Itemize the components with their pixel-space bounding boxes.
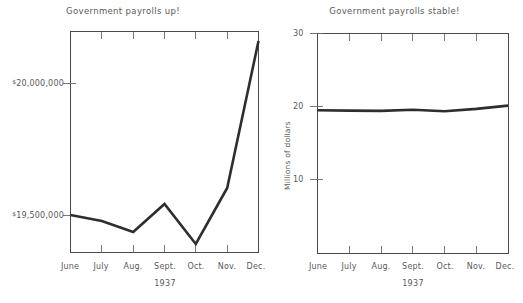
chart-panel-right: Government payrolls stable! <box>262 0 523 303</box>
right-data-line <box>318 106 509 112</box>
right-ytick-label-20: 20 <box>293 102 304 111</box>
right-xtick-label-june: June <box>309 262 327 271</box>
right-x-ticks <box>349 246 476 254</box>
right-xtick-label-nov: Nov. <box>467 262 485 271</box>
left-ytick-label-bottom: $19,500,000 <box>12 210 64 220</box>
left-chart-plot <box>0 0 262 303</box>
left-xtick-label-sept: Sept. <box>154 262 176 271</box>
left-top-ticks <box>102 32 227 40</box>
left-axis-year: 1937 <box>154 279 176 288</box>
right-ytick-label-30: 30 <box>293 29 304 38</box>
left-y-ticks <box>63 84 76 216</box>
right-xtick-label-aug: Aug. <box>372 262 391 271</box>
right-axis-year: 1937 <box>402 279 424 288</box>
left-xtick-label-july: July <box>93 262 108 271</box>
left-xtick-label-oct: Oct. <box>187 262 204 271</box>
left-ytick-value-bottom: 19,500,000 <box>16 211 64 220</box>
right-xtick-label-dec: Dec. <box>496 262 515 271</box>
right-xtick-label-oct: Oct. <box>436 262 453 271</box>
right-chart-plot <box>262 0 523 303</box>
right-y-axis-title: Millions of dollars <box>283 121 292 190</box>
left-ytick-value-top: 20,000,000 <box>16 79 64 88</box>
right-xtick-label-sept: Sept. <box>402 262 424 271</box>
left-x-ticks <box>102 245 227 253</box>
left-ytick-label-top: $20,000,000 <box>12 78 64 88</box>
right-y-ticks <box>310 34 323 180</box>
left-xtick-label-aug: Aug. <box>124 262 143 271</box>
left-data-line <box>71 41 259 244</box>
right-top-ticks <box>349 34 476 42</box>
right-ytick-label-10: 10 <box>293 175 304 184</box>
left-xtick-label-nov: Nov. <box>218 262 236 271</box>
right-xtick-label-july: July <box>341 262 356 271</box>
chart-panel-left: Government payrolls up! <box>0 0 262 303</box>
gee-whiz-graph-figure: Government payrolls up! <box>0 0 523 303</box>
left-xtick-label-june: June <box>61 262 79 271</box>
